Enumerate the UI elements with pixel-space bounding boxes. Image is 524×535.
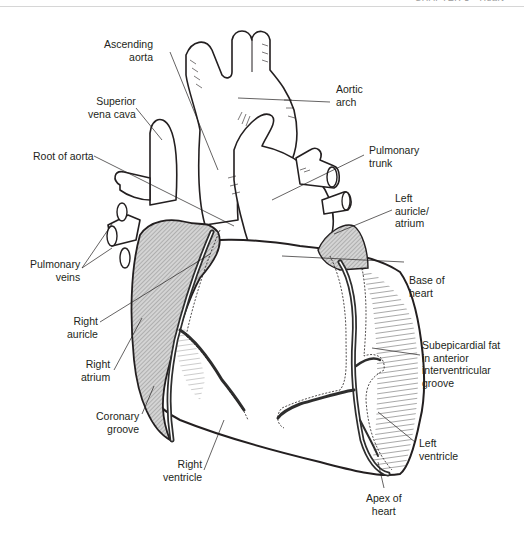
label-aortic-arch: Aortic arch xyxy=(336,83,363,108)
label-left-ventricle: Left ventricle xyxy=(419,437,458,462)
label-apex-of-heart: Apex of heart xyxy=(366,492,402,517)
label-base-of-heart: Base of heart xyxy=(409,274,445,299)
label-coronary-groove: Coronary groove xyxy=(96,410,139,435)
label-right-atrium: Right atrium xyxy=(81,358,110,383)
label-left-auricle-atrium: Left auricle/ atrium xyxy=(395,192,429,230)
label-pulmonary-trunk: Pulmonary trunk xyxy=(369,144,419,169)
label-pulmonary-veins: Pulmonary veins xyxy=(30,258,80,283)
label-right-auricle: Right auricle xyxy=(67,315,98,340)
label-ascending-aorta: Ascending aorta xyxy=(104,38,153,63)
label-superior-vena-cava: Superior vena cava xyxy=(88,95,136,120)
label-root-of-aorta: Root of aorta xyxy=(33,150,94,163)
label-subepicardial-fat: Subepicardial fat in anterior interventr… xyxy=(422,339,500,389)
label-right-ventricle: Right ventricle xyxy=(163,458,202,483)
